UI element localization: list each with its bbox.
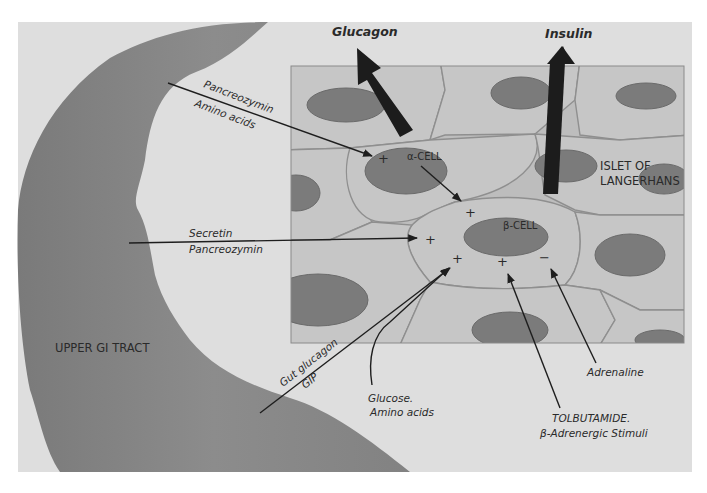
secretin-label: Secretin (189, 227, 232, 239)
gi-tract-label: UPPER GI TRACT (55, 341, 150, 355)
alpha-stimulus-plus-sign: + (378, 151, 389, 166)
adrenaline-minus-sign: − (539, 250, 550, 265)
alpha-to-beta-plus-sign: + (465, 205, 476, 220)
gut-plus-sign: + (452, 251, 463, 266)
glucose-label: Glucose. (368, 392, 413, 404)
insulin-label: Insulin (545, 26, 592, 41)
secretin-plus-sign: + (425, 232, 436, 247)
pancreozymin-label-middle: Pancreozymin (189, 243, 263, 255)
adrenaline-label: Adrenaline (586, 366, 644, 378)
islet-regulation-diagram: Glucagon Insulin UPPER GI TRACT ISLET OF… (0, 0, 707, 493)
tolbutamide-label: TOLBUTAMIDE. (552, 412, 630, 424)
glucagon-label: Glucagon (332, 24, 398, 39)
beta-cell-label: β-CELL (503, 220, 538, 231)
islet-label-line2: LANGERHANS (600, 174, 680, 188)
amino-acids-label-bottom: Amino acids (369, 406, 435, 418)
alpha-cell-label: α-CELL (407, 151, 442, 162)
islet-label-line1: ISLET OF (600, 159, 651, 173)
islet-region (268, 60, 690, 350)
beta-adrenergic-label: β-Adrenergic Stimuli (539, 427, 648, 439)
tolbutamide-plus-sign: + (497, 254, 508, 269)
